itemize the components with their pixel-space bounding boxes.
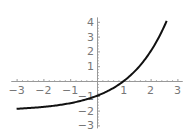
y-tick-label: 3 <box>87 31 94 44</box>
x-tick-label: 1 <box>120 84 127 97</box>
x-tick-label: 3 <box>174 84 181 97</box>
function-plot: −3−2−11234321−1−2−3 <box>0 0 192 139</box>
x-tick-label: 2 <box>147 84 154 97</box>
y-tick-label: 4 <box>87 16 94 29</box>
y-tick-label: 2 <box>87 45 94 58</box>
tick-labels: −3−2−11234321−1−2−3 <box>8 16 180 133</box>
axes <box>11 17 183 128</box>
y-tick-label: −2 <box>78 105 94 118</box>
x-tick-label: −2 <box>35 84 51 97</box>
y-tick-label: −3 <box>78 119 94 132</box>
x-tick-label: −1 <box>62 84 78 97</box>
y-tick-label: 1 <box>87 60 94 73</box>
x-tick-label: −3 <box>8 84 24 97</box>
